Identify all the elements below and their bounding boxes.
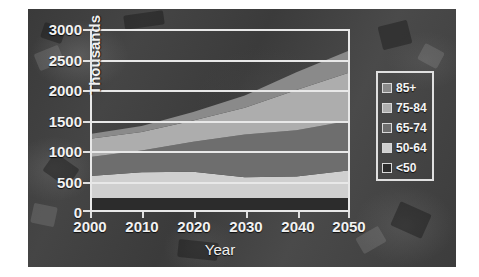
y-tick-mark bbox=[83, 182, 90, 184]
chart-background-plate: 3000 2500 2000 1500 1000 500 0 2000 2010… bbox=[28, 9, 456, 267]
y-axis-title: Thousands bbox=[86, 15, 103, 95]
y-tick-label-1500: 1500 bbox=[49, 114, 82, 129]
y-tick-label-2500: 2500 bbox=[49, 53, 82, 68]
x-axis-title: Year bbox=[90, 241, 350, 258]
plot-border bbox=[90, 29, 350, 212]
legend-swatch-icon bbox=[382, 163, 392, 173]
legend-label: 75-84 bbox=[396, 102, 427, 114]
background-texture-speck bbox=[417, 43, 445, 69]
y-tick-label-1000: 1000 bbox=[49, 144, 82, 159]
y-tick-mark bbox=[83, 210, 90, 212]
background-texture-speck bbox=[123, 10, 165, 29]
legend-item-under-50[interactable]: <50 bbox=[382, 158, 432, 178]
y-tick-label-2000: 2000 bbox=[49, 83, 82, 98]
legend-item-75-84[interactable]: 75-84 bbox=[382, 98, 432, 118]
plot-area: 3000 2500 2000 1500 1000 500 0 2000 2010… bbox=[90, 29, 350, 212]
legend-item-65-74[interactable]: 65-74 bbox=[382, 118, 432, 138]
y-tick-mark bbox=[83, 151, 90, 153]
legend-swatch-icon bbox=[382, 123, 392, 133]
y-tick-label-3000: 3000 bbox=[49, 22, 82, 37]
x-tick-label-2010: 2010 bbox=[118, 219, 166, 234]
background-texture-speck bbox=[390, 201, 432, 239]
x-tick-label-2030: 2030 bbox=[222, 219, 270, 234]
legend: 85+ 75-84 65-74 50-64 <50 bbox=[376, 71, 434, 181]
legend-item-85-plus[interactable]: 85+ bbox=[382, 78, 432, 98]
background-texture-speck bbox=[30, 203, 58, 228]
legend-swatch-icon bbox=[382, 103, 392, 113]
legend-label: 85+ bbox=[396, 82, 416, 94]
x-tick-label-2050: 2050 bbox=[325, 219, 373, 234]
x-tick-label-2040: 2040 bbox=[274, 219, 322, 234]
x-tick-label-2000: 2000 bbox=[66, 219, 114, 234]
legend-item-50-64[interactable]: 50-64 bbox=[382, 138, 432, 158]
legend-label: 50-64 bbox=[396, 142, 427, 154]
legend-label: 65-74 bbox=[396, 122, 427, 134]
figure: 3000 2500 2000 1500 1000 500 0 2000 2010… bbox=[0, 0, 479, 277]
legend-swatch-icon bbox=[382, 143, 392, 153]
background-texture-speck bbox=[378, 20, 413, 51]
legend-label: <50 bbox=[396, 162, 416, 174]
y-tick-mark bbox=[83, 121, 90, 123]
legend-swatch-icon bbox=[382, 83, 392, 93]
x-tick-label-2020: 2020 bbox=[170, 219, 218, 234]
y-tick-label-500: 500 bbox=[57, 175, 82, 190]
